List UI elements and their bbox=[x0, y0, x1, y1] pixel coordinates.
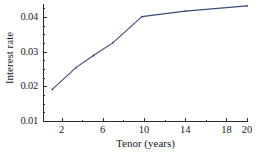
series-data-point bbox=[141, 16, 143, 18]
series-polyline bbox=[52, 6, 247, 90]
series-data-point bbox=[51, 89, 53, 91]
y-axis-title: Interest rate bbox=[3, 18, 15, 98]
series-data-point bbox=[75, 67, 77, 69]
series-data-point bbox=[184, 10, 186, 12]
chart-figure: 0.010.020.030.042610141820 Tenor (years)… bbox=[0, 0, 258, 163]
series-data-point bbox=[246, 5, 248, 7]
x-axis-title: Tenor (years) bbox=[43, 137, 248, 149]
series-data-point bbox=[93, 55, 95, 57]
series-data-point bbox=[112, 42, 114, 44]
